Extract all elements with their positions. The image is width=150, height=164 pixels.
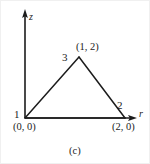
figure-caption: (c)	[69, 146, 81, 157]
node-number-1: 1	[14, 109, 20, 120]
figure-drawing	[1, 1, 150, 164]
node-number-3: 3	[62, 52, 68, 63]
z-axis-label: z	[29, 12, 33, 22]
z-axis	[22, 9, 28, 118]
triangle-element	[25, 57, 125, 118]
r-axis-label: r	[139, 109, 143, 119]
figure-container: z r 1 2 3 (0, 0) (2, 0) (1, 2) (c)	[0, 0, 150, 164]
node-coordinate-2: (2, 0)	[112, 122, 135, 133]
node-number-2: 2	[117, 100, 123, 111]
triangle-edge-1-3	[25, 57, 79, 118]
node-coordinate-1: (0, 0)	[13, 122, 36, 133]
node-coordinate-3: (1, 2)	[76, 42, 99, 53]
